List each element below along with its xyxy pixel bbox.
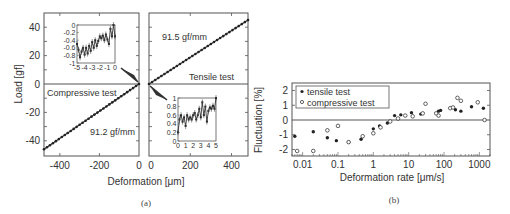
svg-text:-2: -2 — [279, 144, 288, 155]
svg-text:1: 1 — [184, 142, 188, 149]
svg-text:20: 20 — [29, 50, 41, 61]
svg-text:40: 40 — [29, 22, 41, 33]
svg-text:-20: -20 — [26, 107, 41, 118]
svg-text:4: 4 — [206, 142, 210, 149]
svg-text:0: 0 — [148, 160, 154, 171]
panel-a-compressive: Compressive test 91.2 gf/mm -5-4-3-2-100… — [43, 13, 141, 156]
x-axis-label: Deformation rate [μm/s] — [340, 172, 445, 183]
svg-text:0: 0 — [72, 22, 76, 29]
svg-text:2: 2 — [191, 142, 195, 149]
svg-text:0: 0 — [282, 115, 288, 126]
x-tick-labels: 0.010.11101001000 — [293, 159, 491, 170]
svg-text:0.8: 0.8 — [167, 103, 177, 110]
svg-text:0: 0 — [176, 142, 180, 149]
svg-text:200: 200 — [182, 160, 199, 171]
svg-text:1: 1 — [173, 95, 177, 102]
svg-text:-1: -1 — [104, 64, 110, 71]
svg-text:-200: -200 — [89, 160, 109, 171]
svg-text:3: 3 — [199, 142, 203, 149]
svg-text:5: 5 — [214, 142, 218, 149]
svg-text:-3: -3 — [89, 64, 95, 71]
x-axis-label: Deformation [μm] — [108, 176, 185, 187]
svg-text:0.6: 0.6 — [167, 112, 177, 119]
svg-text:-0.6: -0.6 — [63, 44, 75, 51]
tensile-test-label: Tensile test — [189, 72, 235, 82]
svg-text:0.2: 0.2 — [167, 129, 177, 136]
y-axis-label: Fluctuation [%] — [253, 87, 264, 153]
arrow-icon — [121, 68, 138, 82]
svg-text:-1: -1 — [69, 60, 75, 67]
svg-text:-1: -1 — [279, 129, 288, 140]
svg-text:0.01: 0.01 — [293, 159, 313, 170]
svg-text:0: 0 — [136, 160, 142, 171]
svg-text:0: 0 — [34, 79, 40, 90]
y-tick-labels: 40200-20-40 — [26, 22, 41, 147]
legend: tensile test compressive test — [296, 86, 389, 108]
caption-b: (b) — [389, 195, 400, 205]
svg-text:-0.2: -0.2 — [63, 29, 75, 36]
legend-entry-tensile: tensile test — [307, 87, 351, 97]
svg-text:-4: -4 — [81, 64, 87, 71]
caption-a: (a) — [141, 198, 151, 208]
svg-text:-2: -2 — [97, 64, 103, 71]
svg-text:1: 1 — [371, 159, 377, 170]
slope-annotation: 91.2 gf/mm — [90, 127, 135, 137]
svg-text:10: 10 — [403, 159, 415, 170]
svg-text:100: 100 — [436, 159, 453, 170]
svg-text:0: 0 — [173, 138, 177, 145]
panel-a-tensile: Tensile test 91.5 gf/mm 01234510.80.60.4… — [148, 13, 250, 156]
svg-text:1: 1 — [282, 100, 288, 111]
svg-text:-0.8: -0.8 — [63, 52, 75, 59]
y-tick-labels: 210-1-2 — [279, 85, 288, 155]
svg-text:-400: -400 — [50, 160, 70, 171]
svg-text:0: 0 — [113, 64, 117, 71]
slope-annotation: 91.5 gf/mm — [162, 32, 207, 42]
svg-text:400: 400 — [223, 160, 240, 171]
legend-entry-compressive: compressive test — [307, 98, 375, 108]
svg-text:2: 2 — [282, 85, 288, 96]
svg-text:-0.4: -0.4 — [63, 37, 75, 44]
svg-text:-40: -40 — [26, 135, 41, 146]
filled-circle-icon — [300, 90, 303, 93]
svg-text:1000: 1000 — [468, 159, 491, 170]
inset-tensile: 01234510.80.60.40.20 — [167, 95, 218, 150]
x-tick-labels: -400-20000200400 — [50, 160, 240, 171]
svg-text:0.1: 0.1 — [331, 159, 345, 170]
inset-compressive: -5-4-3-2-100-0.2-0.4-0.6-0.8-1 — [63, 22, 117, 72]
panel-b-fluctuation: tensile test compressive test — [292, 83, 490, 156]
compressive-test-label: Compressive test — [47, 88, 117, 98]
figure-canvas: Compressive test 91.2 gf/mm -5-4-3-2-100… — [0, 0, 510, 214]
y-axis-label: Load [gf] — [13, 64, 24, 103]
svg-text:0.4: 0.4 — [167, 120, 177, 127]
